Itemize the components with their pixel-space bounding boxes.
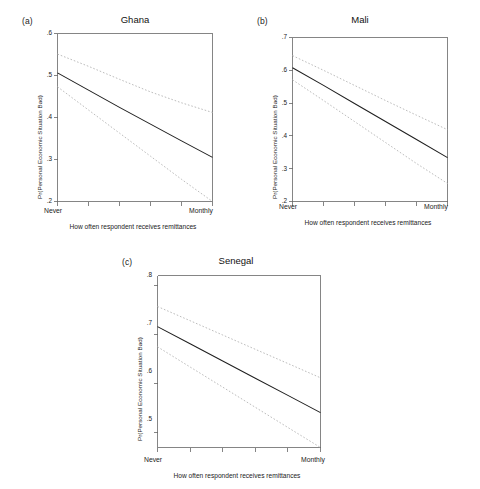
prediction-line-senegal: [158, 327, 321, 413]
lower-ci-line-ghana: [58, 87, 213, 202]
panel-title-mali: Mali: [275, 14, 445, 25]
panel-letter-c: (c): [122, 257, 132, 267]
lower-ci-line-senegal: [158, 347, 321, 448]
plot-area-ghana: [47, 28, 219, 210]
prediction-line-ghana: [58, 73, 213, 157]
upper-ci-line-mali: [293, 56, 448, 130]
upper-ci-line-senegal: [158, 307, 321, 378]
x-tick-label-never: Never: [144, 456, 162, 463]
x-axis-label-mali: How often respondent receives remittance…: [268, 219, 468, 226]
panel-ghana: (a) Ghana Pr(Personal Economic Situation…: [0, 0, 240, 240]
x-tick-label-monthly: Monthly: [301, 456, 325, 463]
prediction-line-mali: [293, 68, 448, 158]
x-tick-label-never: Never: [279, 203, 297, 210]
y-axis-label-senegal: Pr(Personal Economic Situation Bad): [136, 337, 143, 441]
x-axis-label-senegal: How often respondent receives remittance…: [132, 472, 342, 479]
figure-container: (a) Ghana Pr(Personal Economic Situation…: [0, 0, 480, 489]
x-tick-label-monthly: Monthly: [424, 203, 448, 210]
panel-mali: (b) Mali Pr(Personal Economic Situation …: [240, 0, 480, 240]
panel-letter-b: (b): [257, 16, 268, 26]
x-tick-label-never: Never: [44, 207, 62, 214]
panel-title-ghana: Ghana: [57, 14, 213, 25]
x-axis-label-ghana: How often respondent receives remittance…: [33, 223, 233, 230]
y-axis-label-mali: Pr(Personal Economic Situation Bad): [271, 95, 278, 199]
x-tick-label-monthly: Monthly: [189, 207, 213, 214]
lower-ci-line-mali: [293, 80, 448, 184]
panel-title-senegal: Senegal: [156, 255, 316, 266]
panel-senegal: (c) Senegal Pr(Personal Economic Situati…: [110, 245, 360, 489]
panel-letter-a: (a): [22, 16, 33, 26]
plot-area-mali: [282, 32, 454, 210]
plot-area-senegal: [147, 270, 327, 456]
y-axis-label-ghana: Pr(Personal Economic Situation Bad): [36, 95, 43, 199]
